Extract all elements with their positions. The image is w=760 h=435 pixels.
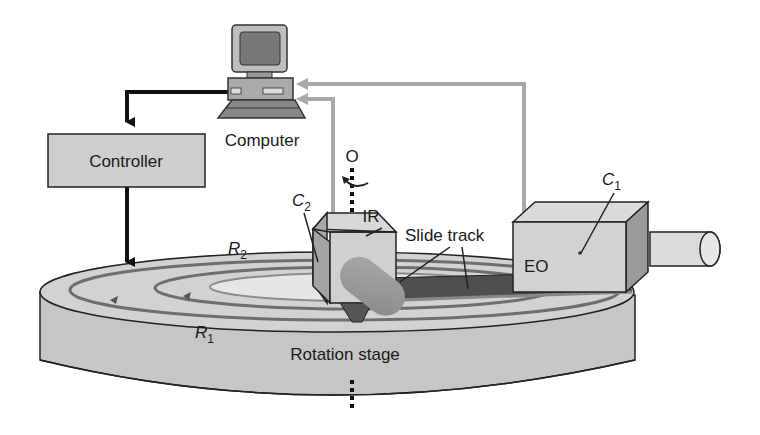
c2-label: C2 [292, 191, 311, 214]
axis-label: O [345, 147, 358, 166]
c1-label: C1 [602, 170, 621, 193]
eo-camera [513, 202, 720, 292]
computer-icon [218, 25, 305, 118]
controller-box: Controller [48, 134, 205, 187]
rotation-stage-label: Rotation stage [290, 345, 400, 364]
arrow-head-icon [296, 78, 308, 90]
setup-diagram: Computer Controller O C2 IR Slide track [0, 0, 760, 435]
arrow-head-icon [296, 93, 308, 105]
eo-label: EO [524, 257, 549, 276]
slide-track-label: Slide track [405, 226, 485, 245]
computer-label: Computer [225, 131, 300, 150]
signal-lines [296, 78, 524, 228]
controller-label: Controller [89, 152, 163, 171]
ir-label: IR [363, 207, 380, 226]
rotation-arrow-icon [346, 181, 368, 186]
